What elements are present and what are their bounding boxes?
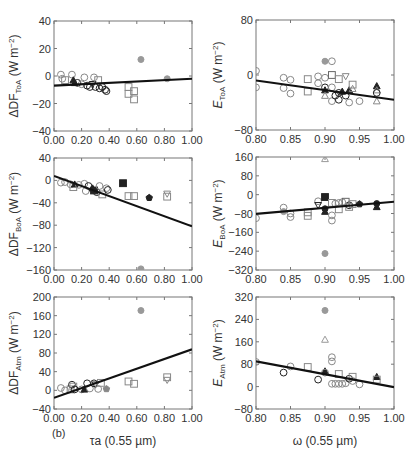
- y-tick-label: −160: [26, 264, 51, 276]
- chart-panel-E_Atm: 0.800.850.900.951.00−80080160240320EAtm …: [211, 291, 405, 424]
- y-tick-label: −80: [32, 219, 51, 231]
- y-axis-label: ΔDFBoA (W m−2): [7, 172, 23, 256]
- chart-panel-dDF_Atm: 0.000.200.400.600.801.00−400408012016020…: [7, 291, 203, 424]
- data-point: [280, 369, 287, 376]
- plot-frame: [256, 20, 394, 130]
- x-axis-label-left: τa (0.55 µm): [90, 434, 156, 448]
- chart-panel-E_BoA: 0.800.850.900.951.00−320−240−160−8008016…: [211, 151, 405, 285]
- y-tick-label: 80: [241, 358, 253, 370]
- y-tick-label: −120: [26, 242, 51, 254]
- data-point: [322, 58, 328, 64]
- x-tick-label: 0.80: [154, 134, 175, 146]
- x-tick-label: 0.20: [71, 412, 92, 424]
- y-tick-label: −320: [228, 264, 253, 276]
- x-tick-label: 0.60: [126, 134, 147, 146]
- y-axis-label: EBoA (W m−2): [211, 179, 227, 247]
- x-tick-label: 0.20: [71, 273, 92, 285]
- data-point: [322, 194, 329, 201]
- data-point: [69, 71, 76, 78]
- x-tick-label: 1.00: [383, 133, 404, 145]
- x-tick-label: 0.85: [280, 412, 301, 424]
- y-tick-label: 80: [39, 347, 51, 359]
- y-tick-label: 40: [39, 15, 51, 27]
- y-tick-label: 320: [235, 291, 253, 303]
- data-point: [304, 364, 311, 371]
- x-tick-label: 0.80: [154, 412, 175, 424]
- y-tick-label: −80: [234, 403, 253, 415]
- x-tick-label: 0.85: [280, 273, 301, 285]
- y-tick-label: 120: [33, 328, 51, 340]
- data-point: [329, 72, 336, 79]
- x-tick-label: 0.95: [349, 133, 370, 145]
- data-points: [58, 308, 171, 394]
- data-point: [164, 191, 171, 197]
- data-point: [322, 336, 329, 342]
- regression-line: [256, 81, 394, 100]
- plot-frame: [54, 297, 192, 409]
- panel-tag: (b): [52, 427, 65, 439]
- y-tick-label: 0: [247, 69, 253, 81]
- x-tick-label: 0.90: [314, 273, 335, 285]
- data-point: [346, 99, 353, 106]
- x-tick-label: 0.80: [154, 273, 175, 285]
- data-point: [103, 88, 110, 95]
- data-points: [253, 155, 381, 256]
- data-point: [329, 358, 336, 365]
- y-axis-label: EToA (W m−2): [211, 42, 227, 109]
- y-tick-label: 160: [235, 336, 253, 348]
- data-point: [342, 74, 349, 80]
- data-point: [322, 251, 328, 257]
- y-tick-label: −80: [234, 124, 253, 136]
- data-point: [315, 80, 322, 87]
- y-axis-label: EAtm (W m−2): [211, 319, 227, 386]
- regression-line: [54, 349, 192, 398]
- data-point: [104, 187, 111, 194]
- data-point: [138, 266, 144, 272]
- x-tick-label: 1.00: [181, 412, 202, 424]
- x-tick-label: 0.90: [314, 412, 335, 424]
- y-tick-label: 80: [241, 14, 253, 26]
- data-point: [280, 74, 287, 81]
- y-tick-label: 20: [39, 43, 51, 55]
- data-point: [329, 217, 336, 224]
- data-point: [287, 90, 294, 97]
- data-point: [81, 74, 88, 81]
- data-point: [356, 98, 363, 105]
- x-tick-label: 0.90: [314, 133, 335, 145]
- chart-panel-E_ToA: 0.800.850.900.951.00−80080EToA (W m−2): [211, 14, 405, 145]
- data-point: [138, 57, 144, 63]
- y-tick-label: −40: [32, 125, 51, 137]
- x-tick-label: 0.40: [98, 273, 119, 285]
- y-tick-label: −240: [228, 245, 253, 257]
- data-point: [322, 74, 329, 81]
- y-tick-label: −80: [234, 208, 253, 220]
- x-tick-label: 0.95: [349, 412, 370, 424]
- y-tick-label: −40: [32, 403, 51, 415]
- data-point: [373, 83, 380, 89]
- y-tick-label: 0: [247, 189, 253, 201]
- y-tick-label: 40: [39, 152, 51, 164]
- x-tick-label: 1.00: [383, 412, 404, 424]
- x-tick-label: 0.40: [98, 134, 119, 146]
- plot-frame: [54, 158, 192, 270]
- x-tick-label: 0.60: [126, 273, 147, 285]
- y-tick-label: 40: [39, 366, 51, 378]
- y-tick-label: 80: [241, 170, 253, 182]
- y-tick-label: −20: [32, 98, 51, 110]
- y-tick-label: 160: [235, 151, 253, 163]
- x-tick-label: 1.00: [181, 134, 202, 146]
- y-tick-label: −40: [32, 197, 51, 209]
- data-point: [287, 76, 294, 83]
- data-point: [304, 76, 311, 83]
- data-point: [120, 180, 127, 187]
- x-tick-label: 0.95: [349, 273, 370, 285]
- data-point: [146, 194, 152, 200]
- data-points: [253, 307, 381, 387]
- y-tick-label: 240: [235, 313, 253, 325]
- y-tick-label: 0: [45, 174, 51, 186]
- y-tick-label: 200: [33, 291, 51, 303]
- y-axis-label: ΔDFToA (W m−2): [7, 35, 23, 118]
- chart-panel-dDF_BoA: 0.000.200.400.600.801.00−160−120−80−4004…: [7, 152, 203, 285]
- y-tick-label: 0: [45, 384, 51, 396]
- x-tick-label: 1.00: [181, 273, 202, 285]
